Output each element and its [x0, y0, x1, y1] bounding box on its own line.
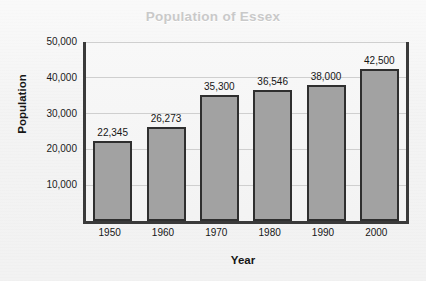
- bar[interactable]: [360, 69, 399, 221]
- gridline: [86, 149, 406, 150]
- bar-slot: 42,500: [360, 42, 399, 221]
- bar-slot: 35,300: [200, 42, 239, 221]
- x-axis-tick-label: 1950: [83, 227, 136, 238]
- y-axis-tick-label: 30,000: [17, 108, 77, 119]
- gridline: [86, 42, 406, 43]
- y-axis-tick-label: 20,000: [17, 143, 77, 154]
- x-axis-tick-label: 1990: [296, 227, 349, 238]
- bar[interactable]: [147, 127, 186, 221]
- bar-slot: 22,345: [93, 42, 132, 221]
- bar[interactable]: [253, 90, 292, 221]
- gridline: [86, 185, 406, 186]
- bar-slot: 26,273: [147, 42, 186, 221]
- x-axis-tick-label: 1970: [190, 227, 243, 238]
- bar-value-label: 38,000: [291, 71, 362, 82]
- x-axis-title: Year: [83, 254, 403, 266]
- bar-slot: 36,546: [253, 42, 292, 221]
- x-axis-tick-label: 1960: [136, 227, 189, 238]
- bar-value-label: 26,273: [131, 113, 202, 124]
- bar[interactable]: [307, 85, 346, 221]
- bar-value-label: 22,345: [77, 127, 148, 138]
- x-axis-tick-label: 1980: [243, 227, 296, 238]
- y-axis-tick-label: 10,000: [17, 179, 77, 190]
- x-axis-tick-label: 2000: [350, 227, 403, 238]
- chart-title: Population of Essex: [0, 9, 426, 24]
- bar-slot: 38,000: [307, 42, 346, 221]
- bar[interactable]: [200, 95, 239, 221]
- plot-area: 22,34526,27335,30036,54638,00042,500: [83, 42, 409, 224]
- bar[interactable]: [93, 141, 132, 221]
- bar-chart-figure: Population of Essex Population 22,34526,…: [0, 0, 426, 281]
- bar-value-label: 42,500: [344, 55, 415, 66]
- y-axis-tick-label: 40,000: [17, 72, 77, 83]
- y-axis-tick-label: 50,000: [17, 36, 77, 47]
